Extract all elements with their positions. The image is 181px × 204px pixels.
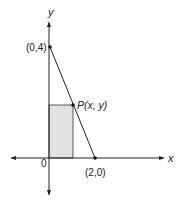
x-axis-left-arrow-icon [10,156,16,160]
x-axis-right-arrow-icon [159,156,165,160]
origin-label: 0 [41,158,47,169]
diagram-canvas: y x 0 (0,4) (2,0) P(x, y) [0,0,181,204]
point-p-label: P(x, y) [77,99,107,111]
point-y-intercept [48,45,52,49]
y-axis-down-arrow-icon [47,190,51,196]
y-axis-label: y [47,6,55,18]
point-p [71,103,75,107]
point-x-intercept [93,156,97,160]
y-axis-up-arrow-icon [47,21,51,27]
x-axis-label: x [167,152,174,164]
inscribed-rectangle [49,105,73,158]
y-intercept-label: (0,4) [26,42,47,53]
x-intercept-label: (2,0) [85,167,106,178]
